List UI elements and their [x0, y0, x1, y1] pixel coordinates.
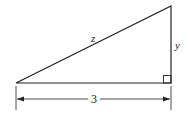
arrowhead-right-icon	[163, 97, 170, 102]
triangle-diagram: z y 3	[0, 0, 189, 116]
arrowhead-left-icon	[17, 97, 24, 102]
right-triangle	[16, 6, 171, 83]
hypotenuse-label: z	[90, 32, 96, 44]
horizontal-leg-label: 3	[91, 92, 97, 106]
vertical-leg-label: y	[174, 39, 180, 51]
right-angle-marker	[164, 76, 172, 84]
